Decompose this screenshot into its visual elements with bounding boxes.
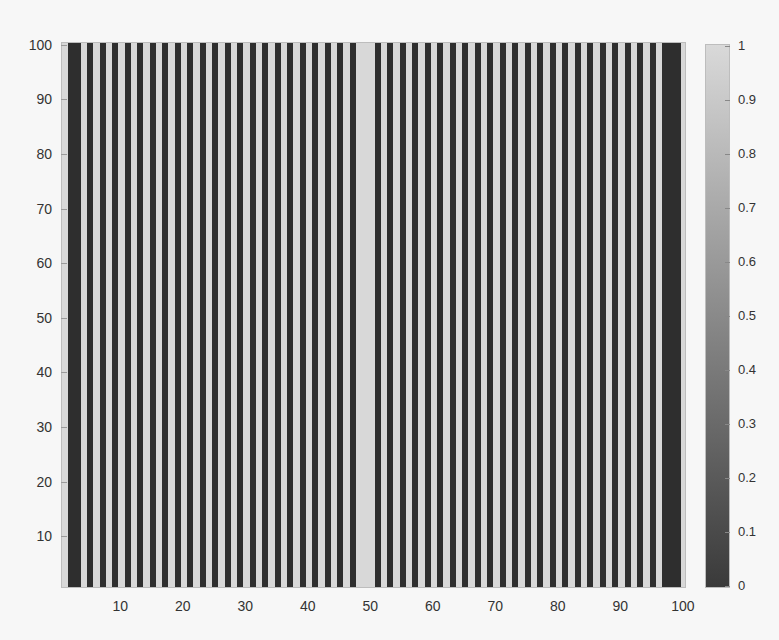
colorbar-tick-mark	[725, 100, 730, 101]
x-tick-label: 80	[538, 598, 578, 614]
colorbar-tick-label: 0.9	[738, 92, 756, 107]
colorbar-tick-label: 0.8	[738, 146, 756, 161]
colorbar-tick-mark	[725, 46, 730, 47]
colorbar-tick-label: 0.4	[738, 362, 756, 377]
colorbar-tick-label: 0.3	[738, 416, 756, 431]
y-tick-label: 10	[12, 528, 52, 544]
y-tick-label: 90	[12, 91, 52, 107]
x-tick-label: 70	[475, 598, 515, 614]
x-tick-label: 40	[288, 598, 328, 614]
y-tick-label: 70	[12, 201, 52, 217]
x-tick-label: 10	[100, 598, 140, 614]
y-tick-mark	[61, 209, 67, 210]
colorbar-tick-label: 1	[738, 38, 745, 53]
colorbar-tick-mark	[725, 586, 730, 587]
x-tick-label: 100	[663, 598, 703, 614]
y-tick-mark	[61, 536, 67, 537]
colorbar-tick-mark	[725, 262, 730, 263]
x-tick-label: 50	[350, 598, 390, 614]
colorbar-tick-mark	[725, 478, 730, 479]
y-tick-mark	[61, 45, 67, 46]
x-tick-label: 30	[225, 598, 265, 614]
y-tick-mark	[61, 482, 67, 483]
x-tick-label: 20	[163, 598, 203, 614]
y-tick-mark	[61, 99, 67, 100]
y-tick-label: 50	[12, 310, 52, 326]
colorbar-tick-mark	[725, 208, 730, 209]
colorbar-tick-mark	[725, 154, 730, 155]
y-tick-label: 60	[12, 255, 52, 271]
colorbar-tick-mark	[725, 532, 730, 533]
y-tick-label: 100	[12, 37, 52, 53]
y-tick-label: 80	[12, 146, 52, 162]
y-tick-mark	[61, 427, 67, 428]
colorbar-tick-mark	[725, 424, 730, 425]
colorbar-tick-label: 0.6	[738, 254, 756, 269]
figure: 102030405060708090100 102030405060708090…	[0, 0, 779, 640]
heatmap-plot-area	[61, 42, 686, 588]
colorbar-tick-label: 0.5	[738, 308, 756, 323]
x-tick-label: 90	[600, 598, 640, 614]
colorbar-tick-label: 0	[738, 578, 745, 593]
heatmap-column	[681, 43, 686, 587]
y-tick-mark	[61, 372, 67, 373]
colorbar-tick-label: 0.7	[738, 200, 756, 215]
y-tick-label: 40	[12, 364, 52, 380]
colorbar-tick-label: 0.2	[738, 470, 756, 485]
x-tick-label: 60	[413, 598, 453, 614]
y-tick-label: 20	[12, 474, 52, 490]
colorbar-tick-mark	[725, 370, 730, 371]
colorbar-tick-mark	[725, 316, 730, 317]
colorbar-tick-label: 0.1	[738, 524, 756, 539]
y-tick-mark	[61, 154, 67, 155]
y-tick-mark	[61, 263, 67, 264]
y-tick-label: 30	[12, 419, 52, 435]
y-tick-mark	[61, 318, 67, 319]
